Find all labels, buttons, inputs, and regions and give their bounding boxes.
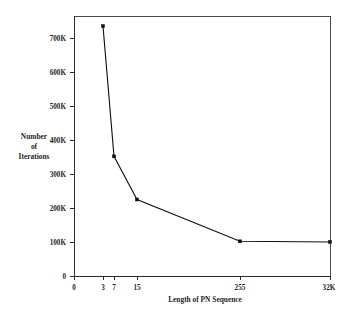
chart-plot-area: 0 100K 200K 300K 400K 500K 600K 700K 0 3… [0,0,345,313]
series-markers [102,25,332,244]
chart-figure: 0 100K 200K 300K 400K 500K 600K 700K 0 3… [0,0,345,313]
y-axis-ticks [70,38,74,276]
x-tick-label-255: 255 [235,284,246,292]
x-axis-ticks [74,276,330,280]
y-tick-label-700k: 700K [50,35,67,43]
series-line-number-of-iterations [103,26,330,242]
y-axis-title-line-3: Iterations [19,152,50,161]
data-point-7 [113,155,116,158]
x-axis-tick-labels: 0 3 7 15 255 32K [72,284,336,292]
y-axis-title-line-2: of [31,142,38,151]
data-point-15 [136,198,139,201]
x-axis-title: Length of PN Sequence [168,295,242,304]
data-point-255 [239,240,242,243]
y-tick-label-300k: 300K [50,171,67,179]
data-point-32K [329,241,332,244]
x-tick-label-15: 15 [133,284,141,292]
y-tick-label-200k: 200K [50,205,67,213]
y-tick-label-500k: 500K [50,103,67,111]
plot-frame-border [74,16,330,276]
y-axis-title-line-1: Number [21,132,48,141]
y-tick-label-100k: 100K [50,239,67,247]
x-tick-label-3: 3 [101,284,105,292]
x-tick-label-32k: 32K [323,284,336,292]
y-axis-title: Number of Iterations [19,132,50,161]
x-tick-label-0: 0 [72,284,76,292]
y-tick-label-600k: 600K [50,69,67,77]
x-tick-label-7: 7 [112,284,116,292]
y-axis-tick-labels: 0 100K 200K 300K 400K 500K 600K 700K [50,35,67,281]
y-tick-label-400k: 400K [50,137,67,145]
y-tick-label-0: 0 [62,273,66,281]
data-point-3 [102,25,105,28]
